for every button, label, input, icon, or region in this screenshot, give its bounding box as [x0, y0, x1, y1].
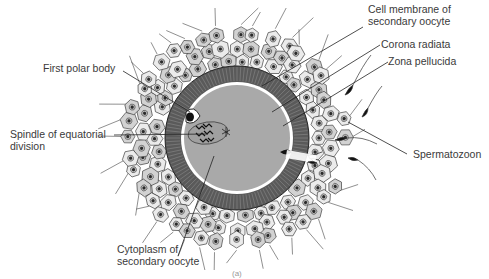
label-spermatozoon: Spermatozoon	[413, 148, 481, 160]
label-cytoplasm-line1: Cytoplasm of	[117, 243, 199, 255]
label-spindle-line1: Spindle of equatorial	[10, 128, 106, 140]
label-cell-membrane-line1: Cell membrane of	[368, 3, 451, 15]
label-corona-radiata-text: Corona radiata	[381, 38, 450, 50]
label-spermatozoon-text: Spermatozoon	[413, 148, 481, 160]
label-zona-pellucida-text: Zona pellucida	[388, 55, 456, 67]
label-cell-membrane: Cell membrane of secondary oocyte	[368, 3, 451, 27]
panel-label: (a)	[232, 268, 242, 279]
label-spindle: Spindle of equatorial division	[10, 128, 106, 152]
label-zona-pellucida: Zona pellucida	[388, 55, 456, 67]
label-cytoplasm-line2: secondary oocyte	[117, 255, 199, 267]
panel-label-text: (a)	[232, 268, 242, 279]
label-corona-radiata: Corona radiata	[381, 38, 450, 50]
label-cell-membrane-line2: secondary oocyte	[368, 15, 451, 27]
label-first-polar-body-text: First polar body	[43, 62, 115, 74]
label-spindle-line2: division	[10, 140, 106, 152]
label-cytoplasm: Cytoplasm of secondary oocyte	[117, 243, 199, 267]
label-first-polar-body: First polar body	[43, 62, 115, 74]
